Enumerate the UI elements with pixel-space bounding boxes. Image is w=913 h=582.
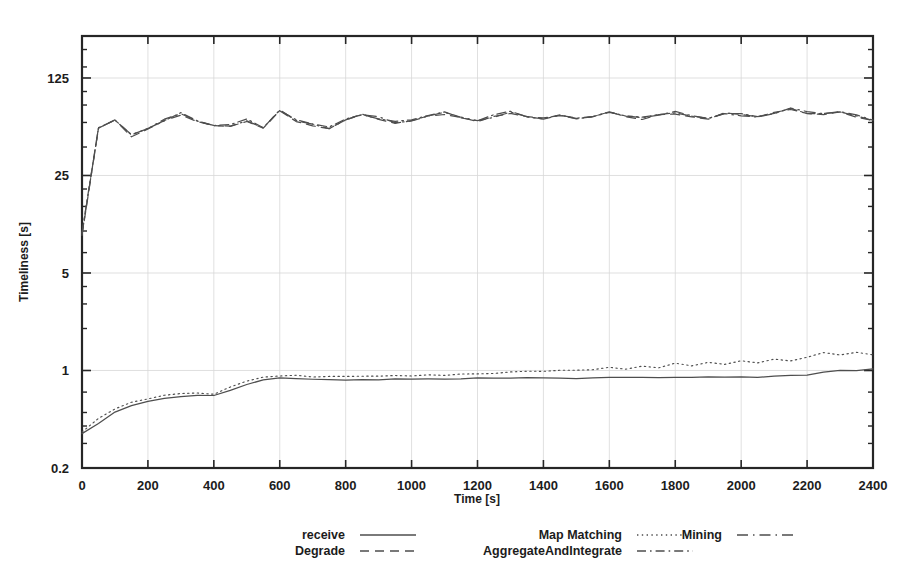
- y-tick-label: 5: [62, 266, 69, 281]
- x-tick-label: 1000: [397, 478, 426, 493]
- legend-label-degrade: Degrade: [295, 544, 345, 558]
- x-tick-label: 1200: [463, 478, 492, 493]
- x-tick-label: 600: [269, 478, 291, 493]
- x-tick-label: 400: [203, 478, 225, 493]
- legend-label-aggregateandintegrate: AggregateAndIntegrate: [483, 544, 622, 558]
- grid-lines: [82, 36, 873, 468]
- x-tick-label: 1800: [661, 478, 690, 493]
- x-tick-label: 1400: [529, 478, 558, 493]
- y-axis-tick-labels: 0.21525125: [47, 71, 69, 476]
- x-tick-label: 0: [78, 478, 85, 493]
- x-axis-title: Time [s]: [454, 492, 500, 506]
- x-tick-label: 2200: [793, 478, 822, 493]
- legend-label-map-matching: Map Matching: [539, 528, 622, 542]
- y-tick-label: 0.2: [51, 461, 69, 476]
- y-tick-label: 1: [62, 363, 69, 378]
- x-tick-label: 800: [335, 478, 357, 493]
- legend-label-receive: receive: [302, 528, 345, 542]
- x-tick-label: 1600: [595, 478, 624, 493]
- y-tick-label: 125: [47, 71, 69, 86]
- y-axis-title: Timeliness [s]: [17, 222, 31, 302]
- legend-label-mining: Mining: [682, 528, 722, 542]
- x-tick-label: 2000: [727, 478, 756, 493]
- chart-figure: 0.21525125 02004006008001000120014001600…: [0, 0, 913, 582]
- chart-legend: receiveMap MatchingMiningDegradeAggregat…: [295, 528, 793, 558]
- x-axis-tick-labels: 0200400600800100012001400160018002000220…: [78, 478, 887, 493]
- timeliness-line-chart: 0.21525125 02004006008001000120014001600…: [0, 0, 913, 582]
- x-tick-label: 2400: [859, 478, 888, 493]
- y-tick-label: 25: [55, 168, 69, 183]
- x-tick-label: 200: [137, 478, 159, 493]
